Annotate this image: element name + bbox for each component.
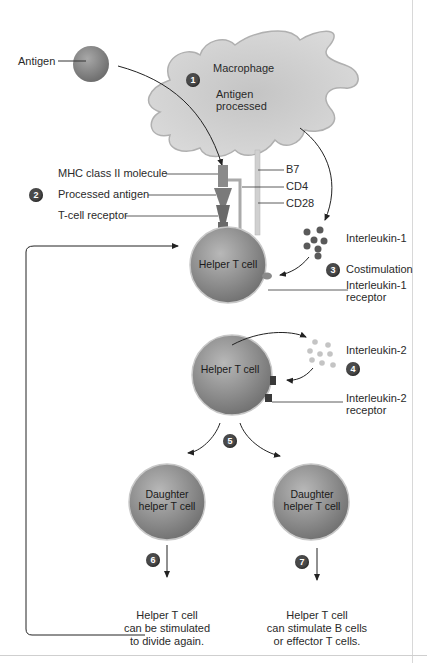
outcome-6-line-3: to divide again. (117, 635, 217, 648)
page-bottom-line (0, 655, 427, 656)
interleukin-1-molecules (304, 227, 328, 260)
step-badge-7: 7 (295, 555, 309, 569)
outcome-6-line-2: can be stimulated (117, 622, 217, 635)
macrophage-cell (149, 31, 359, 157)
label-helper-t-cell-2: Helper T cell (190, 363, 270, 375)
antigen-particle (73, 46, 109, 82)
label-processed-antigen: Processed antigen (58, 188, 149, 201)
outcome-6-line-1: Helper T cell (117, 609, 217, 622)
step-badge-1: 1 (186, 73, 200, 87)
label-il2-receptor-2: receptor (346, 404, 386, 417)
label-cd4: CD4 (286, 180, 308, 193)
diagram-artwork (0, 0, 427, 663)
label-antigen: Antigen (18, 55, 55, 68)
step-badge-2: 2 (29, 188, 43, 202)
label-cd28: CD28 (286, 197, 314, 210)
outcome-7-line-1: Helper T cell (257, 609, 377, 622)
interleukin-2-molecules (307, 339, 336, 368)
diagram: Antigen Macrophage Antigen processed MHC… (0, 0, 427, 663)
outcome-7-line-3: or effector T cells. (257, 635, 377, 648)
step-badge-5: 5 (223, 434, 237, 448)
step-badge-4: 4 (346, 362, 360, 376)
label-mhc-class-ii: MHC class II molecule (58, 167, 167, 180)
outcome-7-line-2: can stimulate B cells (257, 622, 377, 635)
label-il1-receptor-2: receptor (346, 291, 386, 304)
label-interleukin-2: Interleukin-2 (346, 344, 407, 357)
label-daughter-2b: helper T cell (272, 500, 352, 512)
label-helper-t-cell-1: Helper T cell (188, 258, 268, 270)
label-daughter-1b: helper T cell (127, 500, 207, 512)
label-daughter-2a: Daughter (272, 488, 352, 500)
label-interleukin-1: Interleukin-1 (346, 232, 407, 245)
label-antigen-processed-2: processed (216, 100, 267, 113)
page-edge-line (412, 0, 413, 663)
step-badge-6: 6 (146, 553, 160, 567)
label-macrophage: Macrophage (213, 62, 274, 75)
step-badge-3: 3 (326, 263, 340, 277)
label-daughter-1a: Daughter (127, 488, 207, 500)
helper-t-cell-2 (192, 335, 276, 415)
label-b7: B7 (286, 163, 299, 176)
label-costimulation: Costimulation (346, 263, 413, 276)
label-t-cell-receptor: T-cell receptor (58, 209, 128, 222)
